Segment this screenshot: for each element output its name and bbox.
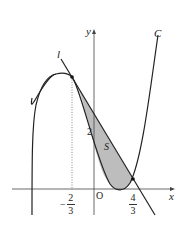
region-label: S bbox=[104, 142, 109, 152]
y-axis-arrow bbox=[92, 29, 96, 34]
line-l bbox=[61, 59, 155, 215]
x-right-numerator: 4 bbox=[131, 193, 136, 203]
region-s bbox=[72, 77, 133, 190]
line-label: l bbox=[57, 49, 60, 60]
x-left-sign: − bbox=[60, 200, 66, 210]
origin-label: O bbox=[96, 191, 103, 201]
y-intercept-label: 2 bbox=[87, 127, 92, 137]
curve-label: C bbox=[154, 28, 161, 39]
intersection-point bbox=[131, 177, 135, 181]
curve-c-tail bbox=[32, 74, 56, 215]
tangent-point bbox=[70, 75, 74, 79]
x-left-fraction: − 2 3 bbox=[60, 193, 75, 216]
x-right-fraction: 4 3 bbox=[129, 193, 137, 216]
x-axis-label: x bbox=[169, 191, 174, 202]
x-left-denominator: 3 bbox=[68, 206, 73, 216]
curve-c bbox=[31, 35, 158, 190]
x-left-numerator: 2 bbox=[68, 193, 73, 203]
x-right-denominator: 3 bbox=[131, 206, 136, 216]
y-axis-label: y bbox=[86, 26, 91, 37]
